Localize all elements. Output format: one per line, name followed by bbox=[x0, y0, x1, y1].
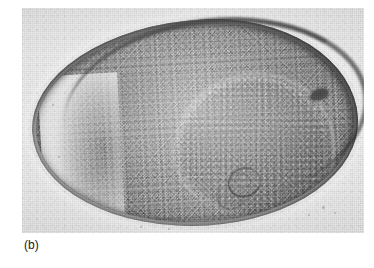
mesosome-outer-ring bbox=[223, 162, 266, 202]
electron-dense-granule bbox=[308, 86, 329, 102]
nucleoid-light-rim bbox=[172, 72, 336, 220]
cell-left-pole-blur bbox=[37, 72, 125, 226]
nucleoid-region bbox=[176, 76, 328, 213]
mesosome-structure bbox=[227, 167, 258, 195]
mesosome-inner-ring bbox=[233, 172, 253, 190]
plate-speck bbox=[140, 226, 142, 228]
bacterial-cell-body bbox=[31, 15, 360, 230]
plate-speck bbox=[334, 212, 336, 214]
cytoplasm-fine-grain bbox=[31, 15, 360, 230]
figure-caption-label: (b) bbox=[24, 238, 39, 252]
cytoplasm-density-mottling bbox=[31, 15, 360, 230]
plate-speck bbox=[308, 214, 310, 216]
plate-speck bbox=[168, 228, 170, 230]
plate-speck bbox=[322, 206, 325, 209]
electron-micrograph-image bbox=[22, 8, 364, 233]
figure-panel-b: (b) bbox=[0, 0, 374, 268]
nucleoid-granulation bbox=[176, 76, 328, 213]
cytoplasm-granulation bbox=[31, 15, 360, 230]
mesosome-membrane-tail bbox=[211, 177, 249, 215]
